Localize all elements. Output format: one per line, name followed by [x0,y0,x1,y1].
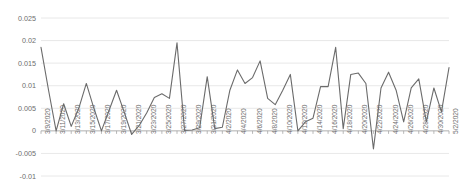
x-axis-tick-label: 3/9/2020 [44,108,51,134]
x-axis-tick-label: 3/19/2020 [120,105,127,134]
y-axis-tick-label: 0.01 [0,81,36,90]
x-axis-tick-label: 3/15/2020 [89,105,96,134]
x-axis-tick-label: 4/20/2020 [361,105,368,134]
y-axis-tick-label: 0.015 [0,59,36,68]
x-axis-tick-label: 3/31/2020 [210,105,217,134]
y-axis-tick-label: 0 [0,126,36,135]
x-axis-tick-label: 4/26/2020 [407,105,414,134]
x-axis-tick-label: 3/25/2020 [165,105,172,134]
x-axis-tick-label: 4/4/2020 [240,108,247,134]
x-axis-tick-label: 3/23/2020 [150,105,157,134]
x-axis-tick-label: 3/13/2020 [74,105,81,134]
y-axis-tick-label: 0.025 [0,14,36,23]
x-axis-tick-label: 4/22/2020 [376,105,383,134]
x-axis-tick-label: 3/21/2020 [135,105,142,134]
x-axis-tick-label: 4/28/2020 [422,105,429,134]
y-axis-tick-label: 0.02 [0,36,36,45]
x-axis-tick-label: 4/12/2020 [301,105,308,134]
x-axis-tick-label: 3/29/2020 [195,105,202,134]
x-axis-tick-label: 4/30/2020 [437,105,444,134]
x-axis-tick-label: 4/2/2020 [225,108,232,134]
x-axis-tick-label: 4/24/2020 [392,105,399,134]
x-axis-tick-label: 4/16/2020 [331,105,338,134]
x-axis-tick-label: 4/18/2020 [346,105,353,134]
x-axis-tick-label: 4/8/2020 [271,108,278,134]
x-axis-tick-label: 3/27/2020 [180,105,187,134]
y-axis-tick-label: -0.01 [0,172,36,181]
x-axis-tick-label: 5/2/2020 [452,108,459,134]
x-axis-tick-label: 4/14/2020 [316,105,323,134]
x-axis-tick-label: 3/11/2020 [59,105,66,134]
x-axis-tick-label: 4/6/2020 [256,108,263,134]
x-axis-tick-label: 4/10/2020 [286,105,293,134]
y-axis-tick-label: -0.005 [0,149,36,158]
y-axis-tick-label: 0.005 [0,104,36,113]
x-axis-tick-label: 3/17/2020 [104,105,111,134]
